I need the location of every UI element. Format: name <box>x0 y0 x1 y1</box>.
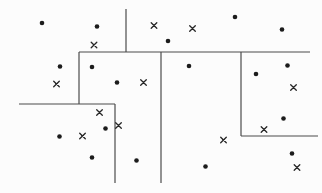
cross-marker <box>151 23 157 29</box>
dot-marker <box>166 39 171 44</box>
dot-marker <box>90 155 95 160</box>
dot-marker <box>134 158 139 163</box>
dot-marker <box>281 116 286 121</box>
cross-marker <box>97 110 103 116</box>
cross-marker <box>221 137 227 143</box>
cross-marker <box>291 85 297 91</box>
partition-diagram <box>0 0 322 193</box>
dot-marker <box>90 65 95 70</box>
dot-marker <box>280 27 285 32</box>
cross-marker <box>91 42 97 48</box>
cross-marker <box>190 26 196 32</box>
dot-marker <box>187 64 192 69</box>
dot-marker <box>285 63 290 68</box>
cross-marker <box>141 80 147 86</box>
cross-marker <box>261 127 267 133</box>
dot-marker <box>203 164 208 169</box>
dot-marker <box>290 151 295 156</box>
cross-marker <box>80 133 86 139</box>
dot-marker <box>115 80 120 85</box>
cross-marker <box>294 165 300 171</box>
diagram-canvas <box>0 0 322 193</box>
dot-marker <box>103 126 108 131</box>
dot-marker <box>57 134 62 139</box>
cross-marker <box>116 123 122 129</box>
dot-marker <box>58 64 63 69</box>
cross-marker <box>54 81 60 87</box>
dot-marker <box>40 21 45 26</box>
dot-marker <box>233 15 238 20</box>
dot-marker <box>254 72 259 77</box>
dot-marker <box>95 24 100 29</box>
